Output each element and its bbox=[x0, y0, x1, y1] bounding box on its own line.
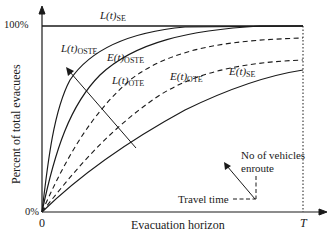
curve-lote bbox=[42, 38, 303, 212]
label-loste: L(t)OSTE bbox=[61, 43, 98, 56]
key-vehicles-line2: enroute bbox=[241, 163, 274, 174]
chart-canvas bbox=[0, 0, 328, 239]
label-lse: L(t)SE bbox=[100, 10, 126, 23]
label-ese: E(t)SE bbox=[229, 66, 255, 79]
x-tick-origin: 0 bbox=[39, 217, 45, 229]
label-lote: L(t)OTE bbox=[112, 75, 144, 88]
x-tick-t: T bbox=[300, 217, 307, 229]
y-tick-100: 100% bbox=[4, 20, 29, 31]
curve-ese bbox=[42, 70, 303, 212]
x-axis-title: Evacuation horizon bbox=[131, 219, 225, 231]
label-eote: E(t)OTE bbox=[170, 71, 203, 84]
y-tick-0: 0% bbox=[25, 207, 39, 218]
x-axis-arrow-icon bbox=[319, 209, 327, 215]
y-axis-title: Percent of total evacuees bbox=[10, 64, 22, 184]
key-travel-time: Travel time bbox=[178, 194, 229, 205]
key-vehicles-line1: No of vehicles bbox=[241, 150, 305, 161]
label-eoste: E(t)OSTE bbox=[107, 52, 144, 65]
y-axis-arrow-icon bbox=[39, 6, 45, 14]
